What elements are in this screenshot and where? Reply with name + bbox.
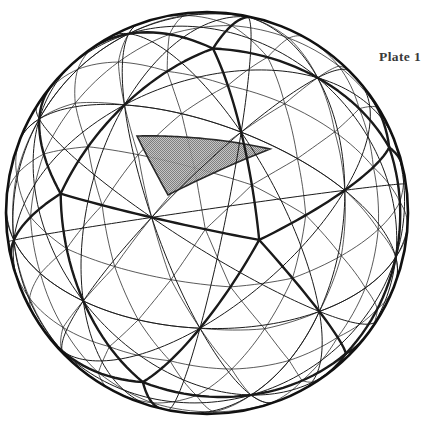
mesh-edge	[197, 396, 214, 412]
mesh-edge	[30, 298, 63, 351]
mesh-edge	[345, 190, 378, 229]
mesh-edge	[88, 147, 138, 155]
mesh-edge	[205, 229, 230, 287]
mesh-edge	[98, 347, 109, 373]
mesh-edge	[171, 229, 205, 279]
mesh-edge	[293, 215, 306, 278]
mesh-edge	[138, 320, 200, 328]
mesh-edge	[102, 155, 138, 206]
mesh-edge	[341, 230, 378, 256]
great-circle-arc	[122, 24, 274, 403]
mesh-edge	[339, 66, 377, 107]
great-circle-arc	[181, 14, 345, 413]
mesh-edge	[83, 267, 114, 301]
mesh-edge	[138, 320, 170, 361]
mesh-edge	[378, 230, 396, 258]
mesh-edge	[200, 328, 232, 369]
mesh-edge	[285, 104, 335, 132]
mesh-edge	[232, 369, 251, 395]
mesh-edge	[213, 49, 389, 148]
mesh-edge	[228, 86, 285, 104]
mesh-edge	[251, 395, 271, 403]
mesh-edge	[124, 105, 138, 155]
mesh-edge	[297, 159, 305, 216]
mesh-edge	[67, 249, 115, 267]
mesh-edge	[182, 114, 242, 132]
mesh-edge	[297, 132, 334, 159]
mesh-edge	[285, 104, 298, 159]
mesh-edge	[138, 155, 151, 218]
mesh-edge	[285, 78, 318, 104]
mesh-edge	[341, 256, 365, 288]
mesh-edge	[319, 288, 365, 312]
mesh-edge	[365, 288, 377, 309]
great-circle-arc	[62, 69, 350, 354]
mesh-edge	[115, 267, 171, 280]
mesh-edge	[115, 217, 152, 266]
mesh-edge	[30, 274, 41, 299]
mesh-edge	[115, 267, 139, 320]
mesh-edge	[232, 329, 265, 369]
mesh-edge	[49, 337, 143, 382]
mesh-edge	[75, 103, 88, 147]
plate-caption-label: Plate 1	[379, 49, 421, 65]
mesh-edge	[143, 240, 259, 382]
mesh-edge	[182, 86, 228, 114]
mesh-edge	[67, 205, 103, 248]
mesh-edge	[259, 147, 389, 240]
mesh-edge	[63, 327, 98, 372]
mesh-edge	[171, 280, 230, 287]
mesh-edge	[265, 329, 290, 361]
great-circle-arc	[13, 14, 305, 394]
mesh-edge	[14, 240, 41, 273]
mesh-edge	[230, 287, 264, 329]
mesh-edge	[232, 360, 289, 369]
mesh-edge	[102, 205, 115, 266]
mesh-edge	[197, 369, 232, 395]
mesh-edge	[265, 278, 293, 329]
mesh-edge	[297, 159, 344, 191]
mesh-edge	[170, 361, 232, 369]
mesh-edge	[302, 337, 338, 380]
mesh-edge	[251, 360, 289, 395]
mesh-edge	[359, 106, 377, 108]
mesh-edge	[167, 71, 181, 113]
mesh-edge	[118, 62, 167, 71]
mesh-edge	[30, 298, 63, 327]
mesh-edge	[75, 69, 78, 103]
mesh-edge	[252, 185, 306, 215]
mesh-edge	[293, 256, 342, 278]
mesh-edge	[205, 185, 252, 229]
mesh-edge	[152, 403, 213, 412]
mesh-edge	[241, 104, 285, 132]
mesh-edge	[170, 361, 197, 396]
great-circle-arc	[6, 204, 408, 328]
mesh-edge	[11, 194, 61, 260]
mesh-edge	[138, 280, 171, 320]
mesh-edge	[268, 57, 285, 104]
mesh-edge	[259, 240, 346, 354]
great-circle-arc	[81, 17, 261, 407]
mesh-edge	[124, 105, 181, 114]
mesh-edge	[252, 159, 298, 185]
mesh-edge	[289, 360, 302, 380]
mesh-edge	[335, 109, 360, 132]
